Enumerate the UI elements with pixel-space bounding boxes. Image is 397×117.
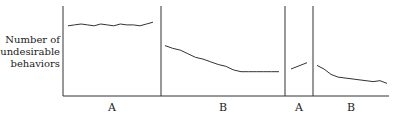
phase-3-line — [291, 63, 307, 69]
phase-1-line — [68, 22, 153, 26]
phase-label-1: A — [107, 101, 117, 114]
reversal-design-chart: ABAB — [0, 0, 397, 117]
phase-4-line — [317, 65, 387, 83]
phase-label-2: B — [219, 101, 227, 114]
phase-label-4: B — [347, 101, 355, 114]
phase-label-3: A — [294, 101, 304, 114]
phase-2-line — [165, 46, 279, 72]
